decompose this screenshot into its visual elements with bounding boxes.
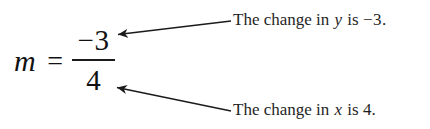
callout-bottom-value: 4. (363, 100, 376, 119)
fraction: −3 4 (72, 26, 115, 95)
callout-top-variable: y (334, 10, 344, 29)
callout-bottom-text-after: is (343, 100, 363, 119)
slope-variable-m: m (14, 46, 36, 76)
slope-equation: m = −3 4 (14, 26, 115, 95)
equals-sign: = (47, 47, 63, 75)
callout-top-value: −3. (363, 10, 387, 29)
callout-top-text-after: is (343, 10, 363, 29)
callout-bottom-text-before: The change in (233, 100, 334, 119)
callout-top-text-before: The change in (233, 10, 334, 29)
slope-fraction-annotated-figure: m = −3 4 The change in y is −3. The chan… (0, 0, 430, 129)
callout-bottom-variable: x (334, 100, 344, 119)
fraction-denominator: 4 (82, 66, 105, 95)
fraction-bar (72, 59, 115, 61)
fraction-numerator: −3 (74, 26, 114, 55)
arrow-to-denominator (117, 88, 231, 112)
callout-change-in-y: The change in y is −3. (233, 11, 387, 28)
arrow-to-numerator (118, 21, 231, 35)
callout-change-in-x: The change in x is 4. (233, 101, 376, 118)
